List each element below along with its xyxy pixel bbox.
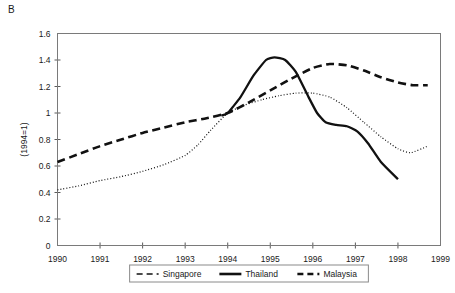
- legend-label-singapore: Singapore: [163, 269, 202, 279]
- x-axis-tick-label: 1995: [261, 254, 280, 264]
- y-axis-tick-label: 1: [46, 108, 51, 118]
- y-axis-tick-label: 0: [46, 241, 51, 251]
- plot-frame: [58, 34, 441, 246]
- legend-label-malaysia: Malaysia: [323, 269, 357, 279]
- x-axis-tick-label: 1997: [346, 254, 365, 264]
- x-axis-tick-label: 1998: [388, 254, 407, 264]
- x-axis-tick-label: 1999: [431, 254, 450, 264]
- line-chart: 00.20.40.60.811.21.41.6 1990199119921993…: [0, 0, 455, 293]
- series-line-singapore: [58, 93, 428, 190]
- y-axis-tick-label: 1.2: [39, 82, 51, 92]
- x-axis-tick-label: 1993: [176, 254, 195, 264]
- figure-panel-b: B 00.20.40.60.811.21.41.6 19901991199219…: [0, 0, 455, 293]
- x-axis-tick-label: 1991: [91, 254, 110, 264]
- y-axis-tick-label: 1.4: [39, 55, 51, 65]
- legend-label-thailand: Thailand: [245, 269, 278, 279]
- chart-legend: SingaporeThailandMalaysia: [130, 265, 369, 282]
- y-axis-tick-label: 0.6: [39, 161, 51, 171]
- y-axis-tick-label: 0.4: [39, 188, 51, 198]
- y-axis-title: (1994=1): [19, 122, 29, 156]
- y-axis-tick-label: 1.6: [39, 29, 51, 39]
- y-axis-tick-label: 0.8: [39, 135, 51, 145]
- x-axis-tick-label: 1996: [303, 254, 322, 264]
- x-axis-tick-label: 1994: [218, 254, 237, 264]
- y-axis-tick-label: 0.2: [39, 214, 51, 224]
- x-axis-tick-label: 1992: [133, 254, 152, 264]
- x-axis-tick-label: 1990: [48, 254, 67, 264]
- series-group: [58, 57, 428, 190]
- series-line-thailand: [221, 57, 398, 179]
